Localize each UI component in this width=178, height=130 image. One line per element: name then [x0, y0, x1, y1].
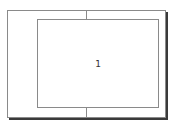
frame-number-label: 1	[95, 59, 101, 69]
center-guide-top	[86, 10, 87, 19]
center-guide-bottom	[86, 108, 87, 118]
content-frame[interactable]: 1	[37, 19, 159, 108]
